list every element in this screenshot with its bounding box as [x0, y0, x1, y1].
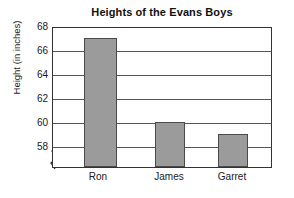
x-tick-label-garret: Garret — [197, 172, 267, 182]
y-tick-label-60: 60 — [22, 118, 48, 128]
y-tick-label-64: 64 — [22, 70, 48, 80]
bar-chart-figure: Heights of the Evans Boys Height (in inc… — [0, 0, 294, 198]
bar-james — [155, 122, 185, 167]
y-axis-label: Height (in inches) — [11, 0, 22, 118]
plot-area — [52, 27, 272, 168]
chart-title: Heights of the Evans Boys — [52, 6, 272, 18]
bar-garret — [218, 134, 248, 167]
bar-ron — [84, 38, 117, 167]
x-tick-label-ron: Ron — [63, 172, 133, 182]
x-tick-label-james: James — [134, 172, 204, 182]
y-tick-label-66: 66 — [22, 46, 48, 56]
y-tick-label-62: 62 — [22, 94, 48, 104]
y-tick-label-68: 68 — [22, 22, 48, 32]
